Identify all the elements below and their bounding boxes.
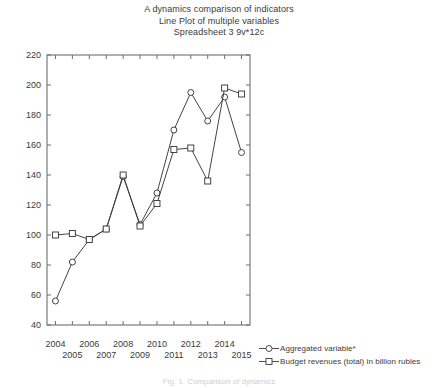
circle-marker-icon — [258, 343, 280, 354]
y-axis-tick-label: 60 — [31, 290, 41, 300]
x-axis-tick-label: 2014 — [215, 339, 235, 349]
y-axis-tick-label: 40 — [31, 320, 41, 330]
plot-area: 4060801001201401601802002202004200520062… — [0, 0, 438, 388]
x-axis-tick-label: 2007 — [96, 350, 116, 360]
series-line — [55, 93, 241, 302]
y-axis-tick-label: 140 — [26, 170, 41, 180]
y-axis-tick-label: 220 — [26, 50, 41, 60]
series-line — [55, 88, 241, 240]
data-point-marker — [52, 298, 58, 304]
line-chart-svg: 4060801001201401601802002202004200520062… — [0, 0, 438, 388]
data-point-marker — [69, 231, 75, 237]
data-point-marker — [239, 150, 245, 156]
data-point-marker — [188, 90, 194, 96]
x-axis-tick-label: 2004 — [45, 339, 65, 349]
data-point-marker — [120, 172, 126, 178]
legend-item-label: Budget revenues (total) in billion ruble… — [280, 357, 420, 366]
data-point-marker — [188, 145, 194, 151]
data-point-marker — [154, 201, 160, 207]
y-axis-tick-label: 200 — [26, 80, 41, 90]
y-axis-tick-label: 120 — [26, 200, 41, 210]
x-axis-tick-label: 2013 — [198, 350, 218, 360]
legend-item[interactable]: Aggregated variable* — [258, 343, 438, 354]
data-point-marker — [103, 226, 109, 232]
y-axis-tick-label: 160 — [26, 140, 41, 150]
y-axis-tick-label: 80 — [31, 260, 41, 270]
chart-legend: Aggregated variable* Budget revenues (to… — [258, 343, 438, 369]
data-point-marker — [86, 237, 92, 243]
data-point-marker — [239, 91, 245, 97]
square-marker-icon — [258, 356, 280, 367]
data-point-marker — [171, 127, 177, 133]
y-axis-tick-label: 180 — [26, 110, 41, 120]
data-point-marker — [69, 259, 75, 265]
data-point-marker — [137, 223, 143, 229]
data-point-marker — [222, 85, 228, 91]
legend-item-label: Aggregated variable* — [280, 344, 356, 353]
data-point-marker — [171, 147, 177, 153]
y-axis-tick-label: 100 — [26, 230, 41, 240]
data-point-marker — [154, 190, 160, 196]
x-axis-tick-label: 2008 — [113, 339, 133, 349]
x-axis-tick-label: 2009 — [130, 350, 150, 360]
x-axis-tick-label: 2006 — [79, 339, 99, 349]
x-axis-tick-label: 2005 — [62, 350, 82, 360]
x-axis-tick-label: 2015 — [232, 350, 252, 360]
data-point-marker — [205, 118, 211, 124]
plot-frame — [47, 55, 250, 325]
figure-caption: Fig. 1. Comparison of dynamics — [0, 377, 438, 388]
data-point-marker — [52, 232, 58, 238]
legend-item[interactable]: Budget revenues (total) in billion ruble… — [258, 356, 438, 367]
x-axis-tick-label: 2011 — [164, 350, 183, 360]
data-point-marker — [205, 178, 211, 184]
x-axis-tick-label: 2012 — [181, 339, 201, 349]
x-axis-tick-label: 2010 — [147, 339, 167, 349]
figure-root: A dynamics comparison of indicators Line… — [0, 0, 438, 388]
